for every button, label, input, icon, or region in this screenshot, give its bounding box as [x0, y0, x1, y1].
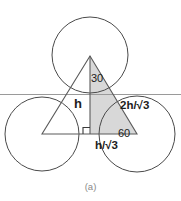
altitude-label: h	[74, 97, 82, 110]
figure-canvas	[0, 0, 181, 201]
apex-angle-label: 30	[91, 73, 103, 84]
geometry-figure: 30 h 2h/√3 60 h/√3 (a)	[0, 0, 181, 201]
figure-caption: (a)	[0, 182, 181, 192]
base-length-label: h/√3	[95, 140, 118, 152]
hypotenuse-label: 2h/√3	[120, 100, 149, 112]
right-angle-marker-icon	[83, 128, 90, 135]
base-angle-label: 60	[118, 128, 130, 139]
